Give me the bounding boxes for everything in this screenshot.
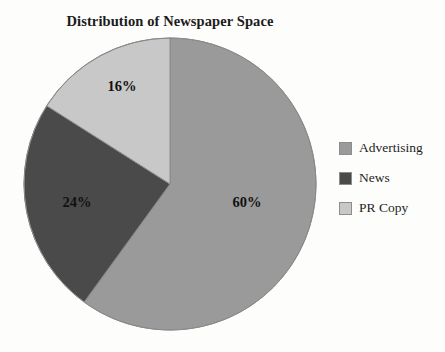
legend-swatch-pr-copy [339, 202, 352, 215]
pie-label-news: 24% [63, 194, 92, 210]
legend-label-advertising: Advertising [359, 141, 423, 155]
pie-label-pr-copy: 16% [108, 78, 137, 94]
legend-item-news[interactable]: News [339, 163, 443, 193]
chart-figure: Distribution of Newspaper Space 60% 24% … [0, 0, 445, 352]
chart-legend: Advertising News PR Copy [339, 133, 443, 223]
pie-label-advertising: 60% [233, 194, 262, 210]
chart-title: Distribution of Newspaper Space [0, 13, 340, 30]
legend-item-advertising[interactable]: Advertising [339, 133, 443, 163]
legend-item-pr-copy[interactable]: PR Copy [339, 193, 443, 223]
pie-slices [24, 38, 316, 330]
legend-swatch-advertising [339, 142, 352, 155]
legend-label-news: News [359, 171, 390, 185]
legend-label-pr-copy: PR Copy [359, 201, 408, 215]
pie-chart-svg: 60% 24% 16% [22, 36, 318, 332]
legend-swatch-news [339, 172, 352, 185]
pie-chart: 60% 24% 16% [22, 36, 318, 332]
